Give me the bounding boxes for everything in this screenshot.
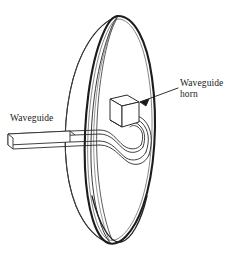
waveguide-side-face bbox=[8, 131, 70, 145]
leader-arrow bbox=[140, 88, 178, 106]
waveguide-horn-box bbox=[110, 95, 139, 127]
label-waveguide-horn-line1: Waveguide bbox=[180, 78, 223, 88]
label-waveguide-horn-line2: horn bbox=[180, 89, 223, 100]
dish-back-surface bbox=[65, 16, 118, 243]
label-waveguide-horn: Waveguide horn bbox=[180, 78, 223, 100]
parabolic-dish bbox=[65, 16, 155, 244]
waveguide-u-loop-inner bbox=[130, 126, 143, 146]
horn-side-face bbox=[122, 102, 139, 127]
label-waveguide: Waveguide bbox=[10, 113, 53, 124]
figure-root: Waveguide Waveguide horn bbox=[0, 0, 243, 256]
antenna-diagram bbox=[0, 0, 243, 256]
waveguide-s-bend-mid bbox=[100, 134, 143, 152]
waveguide-s-bend-bottom bbox=[100, 145, 149, 164]
